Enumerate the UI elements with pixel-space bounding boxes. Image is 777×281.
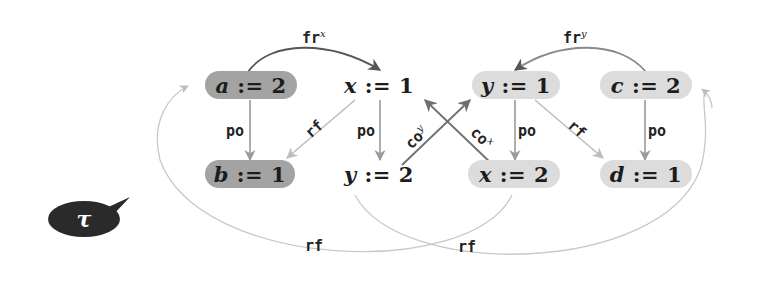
fr-x-edge	[248, 48, 380, 72]
label-text: fr	[302, 29, 320, 47]
node-op: :=	[633, 162, 659, 187]
fr-y-edge	[515, 48, 646, 72]
node-val: 2	[666, 73, 681, 98]
node-val: 2	[271, 73, 286, 98]
node-x-assign-2: x := 2	[468, 160, 560, 188]
node-b-assign-1: b := 1	[205, 160, 295, 188]
node-y-assign-1: y := 1	[472, 71, 560, 99]
node-op: :=	[365, 162, 391, 187]
node-val: 2	[399, 162, 414, 187]
label-text: fr	[563, 29, 581, 47]
node-val: 2	[534, 162, 549, 187]
node-a-assign-2: a := 2	[205, 71, 297, 99]
node-var: x	[344, 73, 357, 98]
label-po-x1-y2: po	[357, 122, 375, 140]
node-op: :=	[500, 162, 526, 187]
node-c-assign-2: c := 2	[600, 71, 692, 99]
node-var: d	[610, 162, 625, 187]
node-d-assign-1: d := 1	[600, 160, 692, 188]
node-y-assign-2: y := 2	[333, 160, 425, 188]
node-op: :=	[237, 73, 263, 98]
node-var: y	[344, 162, 357, 187]
label-sup: y	[581, 28, 587, 39]
label-rf-y2-c: rf	[458, 238, 476, 256]
node-op: :=	[632, 73, 658, 98]
label-po-c-d: po	[648, 122, 666, 140]
node-var: c	[611, 73, 624, 98]
node-val: 1	[536, 73, 551, 98]
node-op: :=	[365, 73, 391, 98]
node-var: b	[214, 162, 229, 187]
node-val: 1	[399, 73, 414, 98]
node-var: y	[481, 73, 494, 98]
node-op: :=	[237, 162, 263, 187]
tau-speech-bubble: τ	[48, 201, 120, 237]
label-po-y1-x2: po	[518, 122, 536, 140]
tau-symbol: τ	[77, 206, 92, 232]
label-rf-x2-a: rf	[305, 237, 323, 255]
node-var: a	[215, 73, 229, 98]
label-sup: x	[320, 28, 326, 39]
node-var: x	[479, 162, 492, 187]
node-val: 1	[271, 162, 286, 187]
label-fr-y: fry	[563, 28, 587, 47]
node-op: :=	[502, 73, 528, 98]
label-fr-x: frx	[302, 28, 326, 47]
node-val: 1	[667, 162, 682, 187]
label-po-a-b: po	[226, 122, 244, 140]
node-x-assign-1: x := 1	[333, 71, 425, 99]
edge-layer	[0, 0, 777, 281]
